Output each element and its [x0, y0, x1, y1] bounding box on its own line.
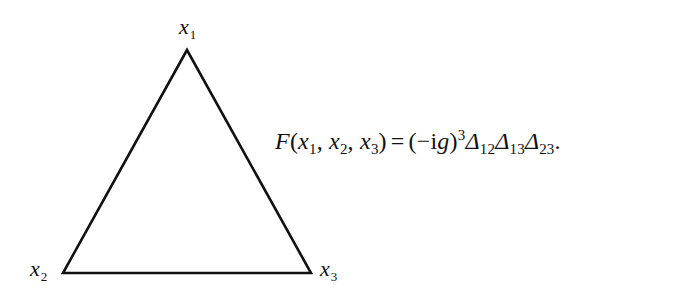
equals-sign: = — [391, 128, 405, 154]
open-paren: ( — [290, 128, 298, 154]
close-paren: ) — [379, 128, 387, 154]
arg-var: x — [360, 128, 371, 154]
propagator-symbol: Δ — [465, 128, 479, 154]
coupling-constant: g — [437, 128, 449, 154]
propagator-subscript: 13 — [509, 141, 524, 157]
comma: , — [317, 128, 323, 154]
open-paren: ( — [409, 128, 417, 154]
arg-var: x — [298, 128, 309, 154]
vertex-label-x2: x2 — [30, 258, 47, 283]
function-name: F — [275, 128, 290, 154]
formula: F(x1, x2, x3)=(−ig)3Δ12Δ13Δ23. — [275, 128, 561, 157]
vertex-label-x1: x1 — [179, 16, 196, 41]
vertex-var: x — [320, 256, 330, 281]
minus-sign: − — [417, 128, 431, 154]
arg-var: x — [329, 128, 340, 154]
propagator-symbol: Δ — [525, 128, 539, 154]
propagator-symbol: Δ — [495, 128, 509, 154]
arg-subscript: 1 — [309, 141, 317, 157]
propagator-subscript: 12 — [480, 141, 495, 157]
vertex-subscript: 2 — [41, 269, 48, 284]
vertex-var: x — [30, 256, 40, 281]
close-paren: ) — [450, 128, 458, 154]
arg-subscript: 3 — [371, 141, 379, 157]
vertex-var: x — [179, 14, 189, 39]
comma: , — [348, 128, 354, 154]
vertex-subscript: 1 — [190, 27, 197, 42]
vertex-label-x3: x3 — [320, 258, 337, 283]
propagator-subscript: 23 — [539, 141, 554, 157]
vertex-subscript: 3 — [331, 269, 338, 284]
triangle-shape — [63, 50, 311, 273]
arg-subscript: 2 — [340, 141, 348, 157]
period: . — [555, 128, 561, 154]
